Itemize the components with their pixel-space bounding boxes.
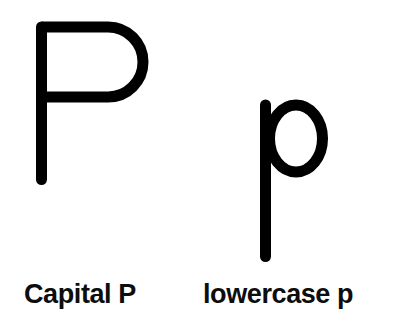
capital-p-glyph bbox=[42, 27, 144, 180]
lowercase-p-glyph bbox=[266, 105, 323, 257]
caption-capital-p: Capital P bbox=[24, 281, 136, 308]
capital-p-bowl bbox=[42, 27, 144, 97]
lowercase-p-bowl bbox=[270, 105, 323, 172]
caption-lowercase-p: lowercase p bbox=[203, 281, 353, 308]
letter-worksheet: Capital P lowercase p bbox=[0, 0, 403, 329]
